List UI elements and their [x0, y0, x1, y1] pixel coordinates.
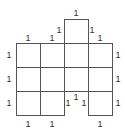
grid-cell: [40, 43, 65, 68]
grid-cell: [88, 43, 113, 68]
edge-length-label: 1: [97, 34, 102, 43]
grid-cell: [40, 67, 65, 92]
grid-cell: [64, 43, 89, 68]
polyomino-net-diagram: 111111111111111111: [0, 0, 125, 137]
edge-length-label: 1: [73, 93, 78, 102]
grid-cell: [16, 43, 41, 68]
edge-length-label: 1: [6, 99, 11, 108]
edge-length-label: 1: [49, 120, 54, 129]
grid-cell: [88, 91, 113, 116]
edge-length-label: 1: [115, 75, 120, 84]
grid-cell: [64, 67, 89, 92]
edge-length-label: 1: [97, 120, 102, 129]
edge-length-label: 1: [56, 26, 61, 35]
grid-cell: [88, 67, 113, 92]
grid-cell: [16, 67, 41, 92]
grid-cell: [40, 91, 65, 116]
edge-length-label: 1: [115, 51, 120, 60]
edge-length-label: 1: [73, 9, 78, 18]
grid-cell: [16, 91, 41, 116]
edge-length-label: 1: [6, 51, 11, 60]
edge-length-label: 1: [49, 34, 54, 43]
edge-length-label: 1: [115, 99, 120, 108]
edge-length-label: 1: [81, 99, 86, 108]
edge-length-label: 1: [25, 120, 30, 129]
edge-length-label: 1: [6, 75, 11, 84]
grid-cell: [64, 19, 89, 44]
edge-length-label: 1: [89, 26, 94, 35]
edge-length-label: 1: [25, 34, 30, 43]
edge-length-label: 1: [65, 99, 70, 108]
